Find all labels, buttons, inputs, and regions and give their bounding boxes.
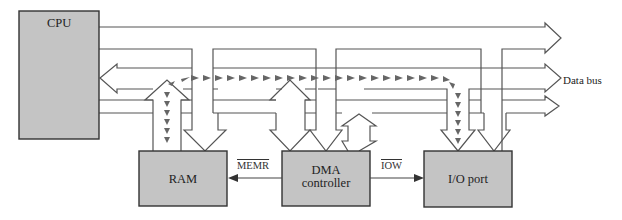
iow-signal-label: IOW bbox=[381, 159, 402, 172]
data-bus-label: Data bus bbox=[563, 74, 602, 87]
dma-control-arrow bbox=[342, 114, 376, 151]
io-port-label: I/O port bbox=[424, 173, 512, 186]
top-bus-arrow bbox=[99, 23, 561, 151]
dma-label-line2: controller bbox=[282, 177, 370, 190]
memr-arrowhead-icon bbox=[228, 174, 238, 182]
cpu-label: CPU bbox=[47, 17, 71, 30]
dma-data-arrow bbox=[270, 80, 310, 151]
iow-arrowhead-icon bbox=[414, 174, 424, 182]
io-address-arrow bbox=[478, 113, 510, 151]
memr-signal-label: MEMR bbox=[237, 159, 269, 172]
address-bus-lines bbox=[99, 49, 481, 113]
cpu-block bbox=[19, 11, 99, 139]
dma-address-arrow bbox=[310, 113, 342, 151]
ram-address-arrow bbox=[184, 113, 226, 151]
ram-label: RAM bbox=[139, 173, 227, 186]
data-bus-arrow bbox=[100, 64, 561, 113]
